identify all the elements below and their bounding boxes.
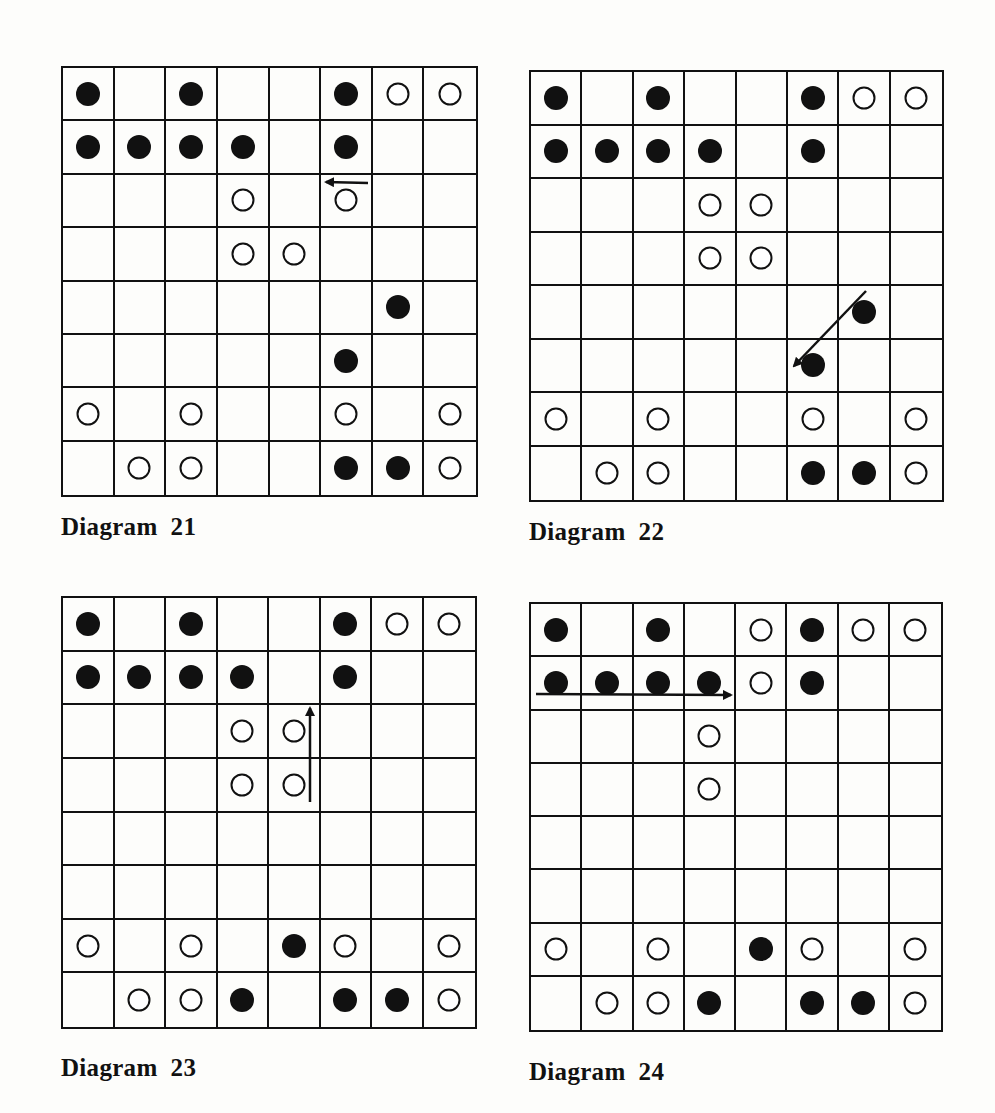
board-cell xyxy=(685,340,736,394)
white-piece-icon xyxy=(698,778,721,801)
board-cell xyxy=(166,388,218,441)
black-piece-icon xyxy=(646,86,670,110)
board-cell xyxy=(166,598,218,652)
board-cell xyxy=(787,977,838,1030)
board-cell xyxy=(634,657,685,710)
board-cell xyxy=(321,759,373,813)
board-cell xyxy=(890,870,941,923)
diagram-caption: Diagram 21 xyxy=(61,513,196,541)
board-cell xyxy=(582,72,633,126)
black-piece-icon xyxy=(333,665,357,689)
board-cell xyxy=(270,68,322,121)
board-cell xyxy=(531,764,582,817)
board-cell xyxy=(685,447,736,501)
board-cell xyxy=(891,126,942,180)
board-cell xyxy=(839,447,890,501)
white-piece-icon xyxy=(647,938,670,961)
board-cell xyxy=(321,598,373,652)
board-cell xyxy=(685,179,736,233)
board-cell xyxy=(634,604,685,657)
board-cell xyxy=(166,652,218,706)
board-cell xyxy=(373,335,425,388)
board-cell xyxy=(373,388,425,441)
board-cell xyxy=(373,442,425,495)
board-cell xyxy=(736,604,787,657)
black-piece-icon xyxy=(544,618,568,642)
board-cell xyxy=(166,442,218,495)
board-cell xyxy=(373,121,425,174)
board-cell xyxy=(685,817,736,870)
board-cell xyxy=(424,598,476,652)
board-cell xyxy=(685,977,736,1030)
board-cell xyxy=(891,233,942,287)
board-cell xyxy=(321,652,373,706)
board-cell xyxy=(737,340,788,394)
board-cell xyxy=(736,817,787,870)
black-piece-icon xyxy=(76,135,100,159)
board-cell xyxy=(63,121,115,174)
white-piece-icon xyxy=(801,407,824,430)
board-cell xyxy=(634,179,685,233)
board-cell xyxy=(891,393,942,447)
board-cell xyxy=(582,657,633,710)
board-cell xyxy=(424,866,476,920)
white-piece-icon xyxy=(750,247,773,270)
board-cell xyxy=(839,764,890,817)
white-piece-icon xyxy=(231,773,254,796)
board-cell xyxy=(582,233,633,287)
board-cell xyxy=(270,388,322,441)
board-cell xyxy=(166,759,218,813)
black-piece-icon xyxy=(179,82,203,106)
board-cell xyxy=(63,388,115,441)
board-cell xyxy=(531,604,582,657)
white-piece-icon xyxy=(180,457,203,480)
board-cell xyxy=(839,233,890,287)
board-cell xyxy=(63,68,115,121)
board-cell xyxy=(531,924,582,977)
board-cell xyxy=(115,813,167,867)
board-cell xyxy=(787,657,838,710)
board-cell xyxy=(736,977,787,1030)
board-cell xyxy=(63,705,115,759)
white-piece-icon xyxy=(334,934,357,957)
black-piece-icon xyxy=(801,139,825,163)
board-cell xyxy=(685,72,736,126)
board-cell xyxy=(166,866,218,920)
white-piece-icon xyxy=(544,938,567,961)
board-cell xyxy=(372,866,424,920)
black-piece-icon xyxy=(646,139,670,163)
board-cell xyxy=(424,813,476,867)
white-piece-icon xyxy=(904,992,927,1015)
board-cell xyxy=(321,335,373,388)
board-cell xyxy=(63,175,115,228)
black-piece-icon xyxy=(334,135,358,159)
white-piece-icon xyxy=(128,457,151,480)
black-piece-icon xyxy=(386,456,410,480)
board-cell xyxy=(63,920,115,974)
board-cell xyxy=(321,388,373,441)
board-cell xyxy=(788,447,839,501)
black-piece-icon xyxy=(76,82,100,106)
board-cell xyxy=(321,973,373,1027)
board-cell xyxy=(736,924,787,977)
black-piece-icon xyxy=(127,135,151,159)
board-cell xyxy=(424,759,476,813)
board-cell xyxy=(321,813,373,867)
board-cell xyxy=(582,977,633,1030)
board-cell xyxy=(269,866,321,920)
black-piece-icon xyxy=(852,461,876,485)
board-cell xyxy=(685,233,736,287)
board-cell xyxy=(166,920,218,974)
board-cell xyxy=(424,175,476,228)
board-cell xyxy=(737,126,788,180)
black-piece-icon xyxy=(800,618,824,642)
white-piece-icon xyxy=(438,989,461,1012)
board-cell xyxy=(582,604,633,657)
board-cell xyxy=(166,335,218,388)
board-cell xyxy=(424,228,476,281)
black-piece-icon xyxy=(801,461,825,485)
black-piece-icon xyxy=(231,135,255,159)
board-cell xyxy=(531,977,582,1030)
board-cell xyxy=(424,335,476,388)
black-piece-icon xyxy=(385,988,409,1012)
